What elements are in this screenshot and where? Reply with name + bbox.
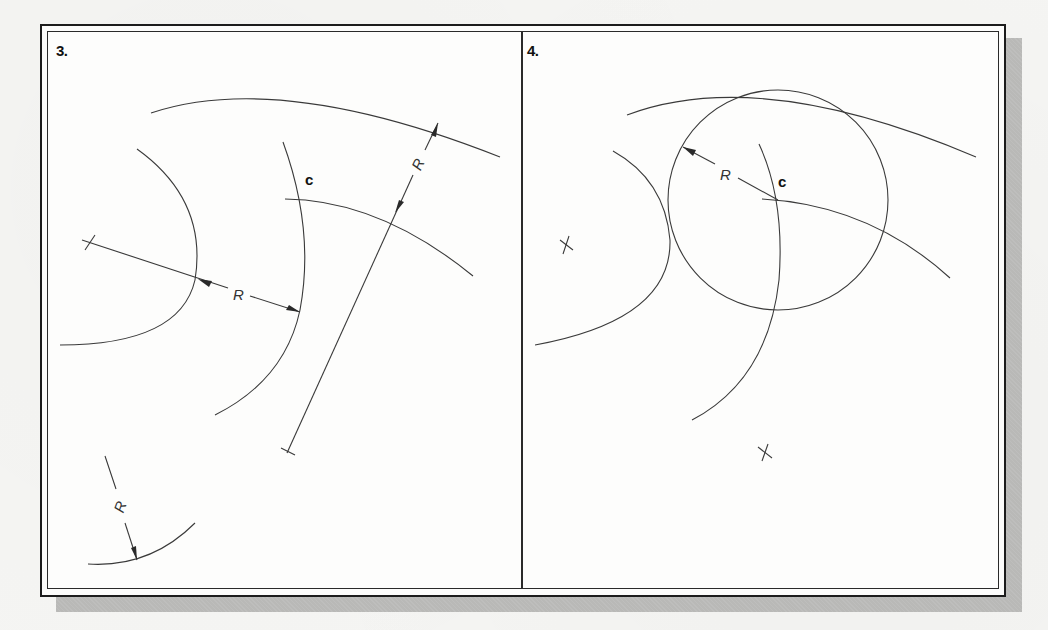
panel-4-label: 4. [527, 42, 539, 59]
panel-divider [521, 31, 523, 589]
figure-frame-inner [47, 31, 999, 589]
panel-4-point-c-label: c [778, 173, 786, 190]
panel-3-label: 3. [56, 42, 68, 59]
panel-3-point-c-label: c [305, 171, 313, 188]
